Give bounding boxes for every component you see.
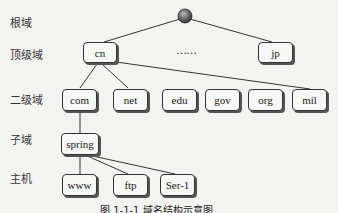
figure-caption: 图 1-1-1 域名结构示意图 <box>100 202 213 213</box>
node-www: www <box>62 174 97 196</box>
node-cn: cn <box>83 42 117 63</box>
level-label-root: 根域 <box>10 14 32 30</box>
node-org: org <box>248 89 283 111</box>
node-edu: edu <box>162 89 197 111</box>
node-gov: gov <box>205 89 240 111</box>
level-label-sld: 二级域 <box>10 91 43 107</box>
node-ftp: ftp <box>113 174 148 196</box>
level-label-subdomain: 子域 <box>10 131 32 147</box>
ellipsis: …… <box>176 44 196 57</box>
node-mil: mil <box>292 89 327 111</box>
node-jp: jp <box>258 42 293 63</box>
level-label-host: 主机 <box>10 170 32 186</box>
node-spring: spring <box>61 133 99 155</box>
node-net: net <box>113 89 148 111</box>
node-com: com <box>62 89 97 111</box>
level-label-tld: 顶级域 <box>10 46 43 62</box>
root-node <box>178 9 192 23</box>
node-ser-1: Ser-1 <box>160 174 195 196</box>
